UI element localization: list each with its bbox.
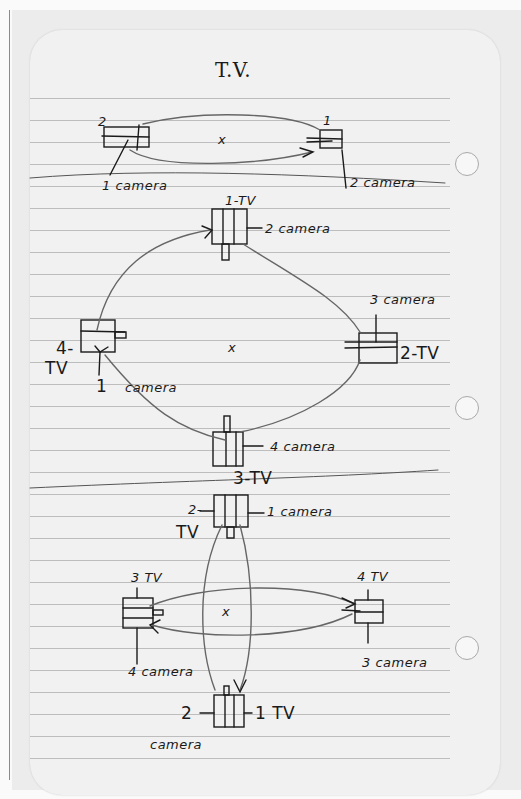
d2-bottom-tv-label: 3-TV	[233, 468, 272, 488]
d3-left-tv-label: 3 TV	[131, 570, 162, 585]
d3-top-camera-label: 1 camera	[267, 504, 333, 519]
diagram-2	[81, 209, 397, 466]
d2-left-tv-label: TV	[45, 358, 68, 378]
d3-top-tv-label: TV	[176, 522, 199, 542]
d2-center-mark: x	[228, 340, 236, 355]
d1-left-camera-label: 1 camera	[102, 178, 168, 193]
d2-top-tv-label: 1-TV	[225, 193, 256, 208]
d1-right-camera-label: 2 camera	[350, 175, 416, 190]
pencil-diagrams	[0, 0, 521, 799]
diagram-3	[123, 495, 383, 727]
d3-bottom-camera-label: camera	[150, 737, 202, 752]
d3-right-camera-label: 3 camera	[362, 655, 428, 670]
d3-bottom-camera-number: 2	[181, 703, 192, 723]
d2-left-camera-number: 1	[96, 376, 107, 396]
d1-right-number: 1	[323, 113, 332, 128]
d3-center-mark: x	[222, 604, 230, 619]
d2-right-camera-label: 3 camera	[370, 292, 436, 307]
d3-left-camera-label: 4 camera	[128, 664, 194, 679]
d3-right-tv-label: 4 TV	[357, 569, 388, 584]
d2-bottom-camera-label: 4 camera	[270, 439, 336, 454]
page-title: T.V.	[215, 58, 251, 82]
d2-left-camera-label: camera	[125, 380, 177, 395]
d3-top-tv-number: 2-	[188, 502, 202, 517]
d2-left-tv-number: 4-	[56, 338, 74, 358]
d2-right-tv-label: 2-TV	[400, 343, 439, 363]
d3-bottom-tv-label: 1 TV	[255, 703, 295, 723]
d2-top-camera-label: 2 camera	[265, 221, 331, 236]
d1-center-mark: x	[218, 132, 226, 147]
d1-left-number: 2	[98, 114, 107, 129]
